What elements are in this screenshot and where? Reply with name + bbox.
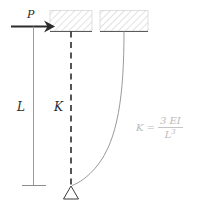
- denominator-exponent: 3: [171, 128, 175, 136]
- formula-lhs: K: [136, 123, 143, 133]
- deflected-column-curve: [72, 32, 124, 186]
- stiffness-formula: K = 3 EI L3: [136, 116, 183, 140]
- triangle-pin-support: [64, 186, 79, 199]
- fixed-support-hatch-right: [100, 11, 148, 32]
- length-label-l: L: [17, 101, 25, 113]
- formula-denominator: L3: [163, 128, 178, 140]
- mechanics-diagram: P L K K = 3 EI L3: [0, 0, 197, 208]
- formula-fraction: 3 EI L3: [158, 116, 183, 140]
- formula-numerator: 3 EI: [158, 116, 183, 127]
- load-label-p: P: [27, 9, 34, 20]
- formula-equals: =: [146, 123, 154, 133]
- stiffness-label-k: K: [54, 101, 63, 113]
- fixed-support-hatch-left: [50, 11, 92, 32]
- diagram-canvas: [0, 0, 197, 208]
